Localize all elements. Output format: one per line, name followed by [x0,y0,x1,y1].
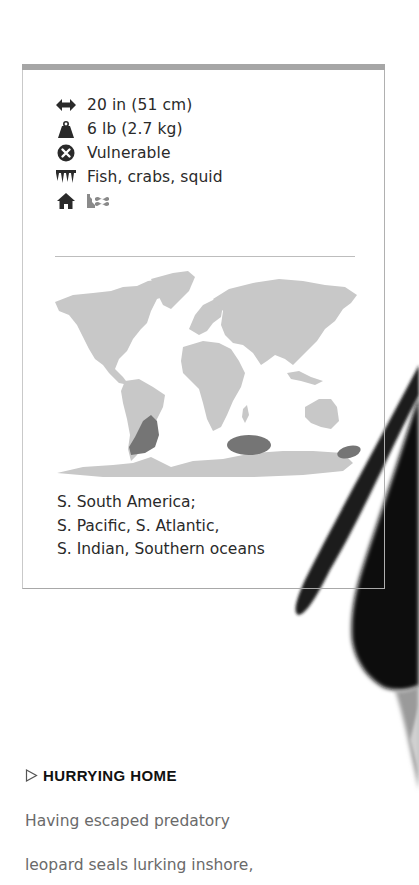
range-line: S. Pacific, S. Atlantic, [57,515,265,539]
fact-list: 20 in (51 cm) 6 lb (2.7 kg) Vulnerable F… [55,93,223,213]
range-description: S. South America; S. Pacific, S. Atlanti… [57,491,265,562]
habitat-home-icon [55,192,77,210]
page: 20 in (51 cm) 6 lb (2.7 kg) Vulnerable F… [0,0,419,885]
caption-body: Having escaped predatory leopard seals l… [25,788,419,885]
photo-caption: HURRYING HOME Having escaped predatory l… [25,764,419,885]
range-line: S. Indian, Southern oceans [57,538,265,562]
length-arrows-icon [55,96,77,114]
caption-line: leopard seals lurking inshore, [25,854,419,876]
fact-habitat [55,189,223,213]
weight-value: 6 lb (2.7 kg) [87,120,183,138]
fact-box-top-bar [22,64,385,70]
caption-line: Having escaped predatory [25,810,419,832]
diet-teeth-icon [55,168,77,186]
coast-waves-icon [87,192,109,210]
fact-box-divider [55,256,355,257]
range-map [53,269,371,479]
fact-weight: 6 lb (2.7 kg) [55,117,223,141]
fact-diet: Fish, crabs, squid [55,165,223,189]
caption-heading-text: HURRYING HOME [43,767,177,784]
species-fact-box: 20 in (51 cm) 6 lb (2.7 kg) Vulnerable F… [22,64,385,589]
diet-value: Fish, crabs, squid [87,168,223,186]
fact-conservation-status: Vulnerable [55,141,223,165]
weight-icon [55,120,77,138]
caption-heading: HURRYING HOME [25,764,419,786]
length-value: 20 in (51 cm) [87,96,192,114]
range-line: S. South America; [57,491,265,515]
conservation-status-value: Vulnerable [87,144,171,162]
conservation-status-icon [55,144,77,162]
triangle-pointer-icon [25,769,38,782]
fact-length: 20 in (51 cm) [55,93,223,117]
